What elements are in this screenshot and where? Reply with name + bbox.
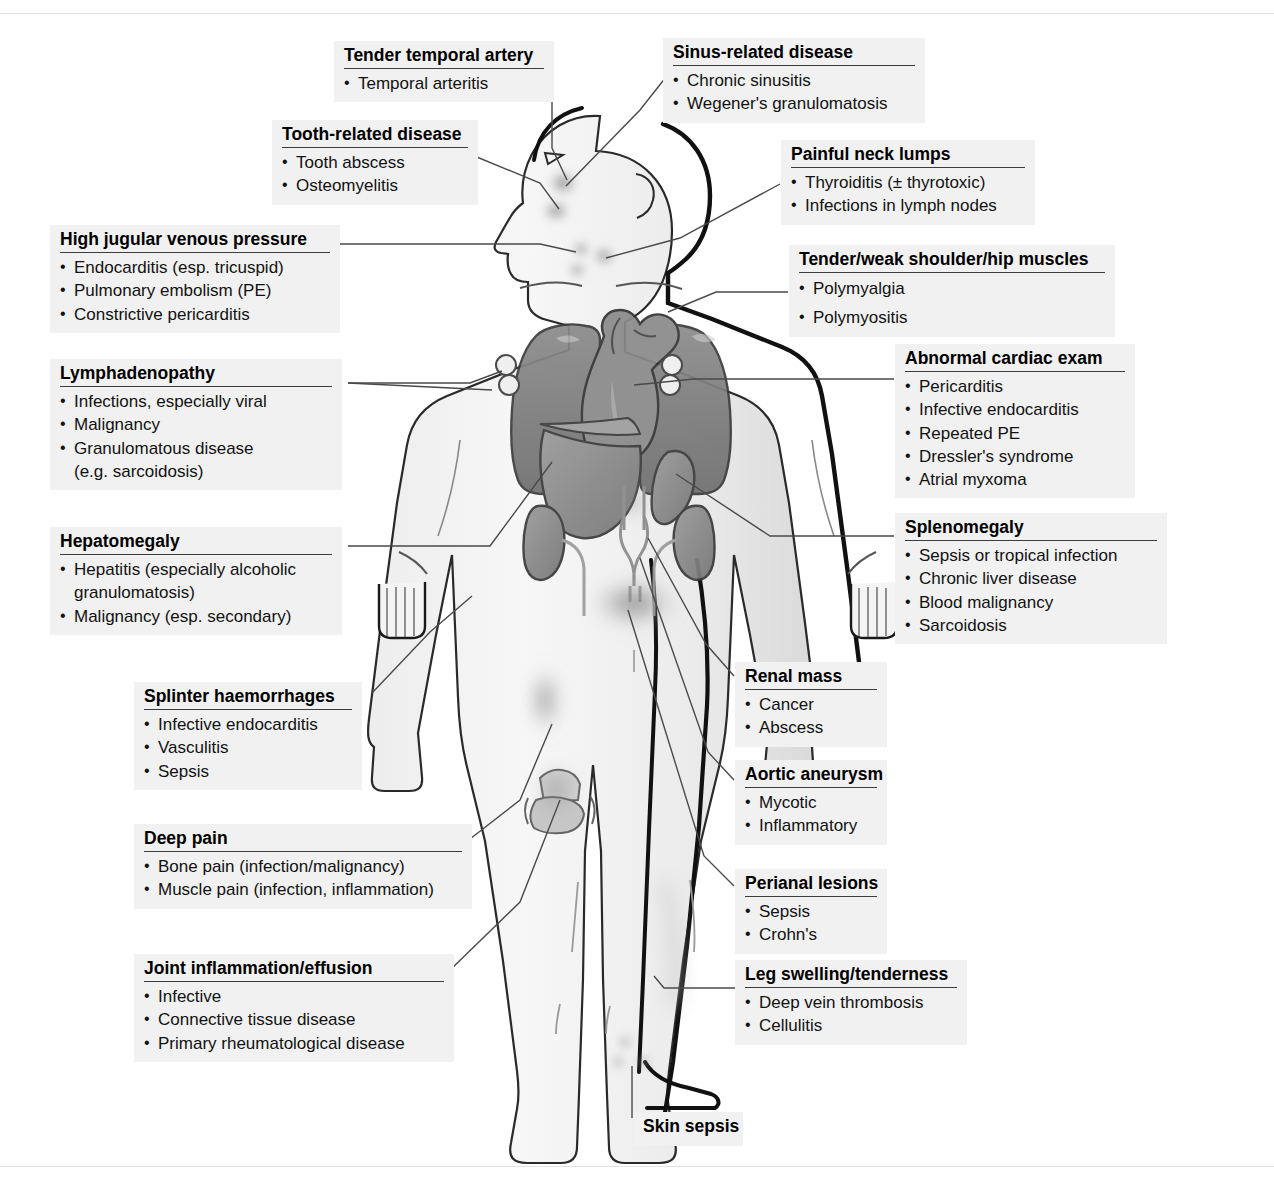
label-items: Polymyalgia Polymyositis	[799, 277, 1105, 329]
list-item: Polymyositis	[799, 306, 1105, 329]
list-item: Abscess	[745, 716, 877, 739]
list-item: Pulmonary embolism (PE)	[60, 279, 330, 302]
list-item: Infections, especially viral	[60, 390, 332, 413]
list-item: Cancer	[745, 693, 877, 716]
label-tooth-related-disease[interactable]: Tooth-related disease Tooth abscess Oste…	[272, 120, 478, 205]
list-item: Deep vein thrombosis	[745, 991, 957, 1014]
label-heading: Sinus-related disease	[673, 42, 915, 66]
list-item: Sepsis or tropical infection	[905, 544, 1157, 567]
label-items: Sepsis or tropical infection Chronic liv…	[905, 544, 1157, 636]
label-painful-neck-lumps[interactable]: Painful neck lumps Thyroiditis (± thyrot…	[781, 140, 1035, 225]
kidney-right	[674, 506, 715, 580]
list-item: Mycotic	[745, 791, 877, 814]
spot-skin-2	[611, 1056, 625, 1068]
list-item: Vasculitis	[144, 736, 352, 759]
list-item: Infections in lymph nodes	[791, 194, 1025, 217]
spot-neck-lower	[568, 262, 586, 278]
list-item: Chronic liver disease	[905, 567, 1157, 590]
label-leg-swelling-tenderness[interactable]: Leg swelling/tenderness Deep vein thromb…	[735, 960, 967, 1045]
label-items: Pericarditis Infective endocarditis Repe…	[905, 375, 1125, 491]
thumb-crease-right	[848, 552, 876, 574]
label-abnormal-cardiac-exam[interactable]: Abnormal cardiac exam Pericarditis Infec…	[895, 344, 1135, 498]
list-item: Crohn's	[745, 923, 877, 946]
label-heading: Renal mass	[745, 666, 877, 690]
label-heading: Tooth-related disease	[282, 124, 468, 148]
label-items: Mycotic Inflammatory	[745, 791, 877, 837]
label-tender-temporal-artery[interactable]: Tender temporal artery Temporal arteriti…	[334, 41, 554, 102]
label-high-jugular-venous-pressure[interactable]: High jugular venous pressure Endocarditi…	[50, 225, 340, 333]
label-items: Endocarditis (esp. tricuspid) Pulmonary …	[60, 256, 330, 325]
diagram-canvas: Tender temporal artery Temporal arteriti…	[0, 0, 1274, 1191]
label-renal-mass[interactable]: Renal mass Cancer Abscess	[735, 662, 887, 747]
lymph-node-left-upper	[496, 355, 516, 375]
list-item: Sepsis	[745, 900, 877, 923]
label-heading: Tender temporal artery	[344, 45, 544, 69]
label-heading: Lymphadenopathy	[60, 363, 332, 387]
list-item: Malignancy	[60, 413, 332, 436]
label-perianal-lesions[interactable]: Perianal lesions Sepsis Crohn's	[735, 869, 887, 954]
list-item: Bone pain (infection/malignancy)	[144, 855, 462, 878]
label-items: Hepatitis (especially alcoholic granulom…	[60, 558, 332, 627]
label-skin-sepsis[interactable]: Skin sepsis	[633, 1112, 743, 1146]
list-item: Tooth abscess	[282, 151, 468, 174]
label-heading: Skin sepsis	[643, 1116, 733, 1139]
label-heading: Leg swelling/tenderness	[745, 964, 957, 988]
label-heading: Tender/weak shoulder/hip muscles	[799, 249, 1105, 273]
label-sinus-related-disease[interactable]: Sinus-related disease Chronic sinusitis …	[663, 38, 925, 123]
spot-temporal-artery	[548, 170, 578, 196]
label-splenomegaly[interactable]: Splenomegaly Sepsis or tropical infectio…	[895, 513, 1167, 644]
spot-aorta	[602, 480, 654, 520]
list-item: Polymyalgia	[799, 277, 1105, 300]
label-items: Infective Connective tissue disease Prim…	[144, 985, 444, 1054]
label-lymphadenopathy[interactable]: Lymphadenopathy Infections, especially v…	[50, 359, 342, 490]
label-items: Tooth abscess Osteomyelitis	[282, 151, 468, 197]
spot-thyroid	[593, 246, 615, 266]
lymph-node-left-lower	[499, 375, 519, 395]
label-heading: Splinter haemorrhages	[144, 686, 352, 710]
label-deep-pain[interactable]: Deep pain Bone pain (infection/malignanc…	[134, 824, 472, 909]
label-items: Bone pain (infection/malignancy) Muscle …	[144, 855, 462, 901]
list-item: Constrictive pericarditis	[60, 303, 330, 326]
list-item: Infective	[144, 985, 444, 1008]
list-item: Chronic sinusitis	[673, 69, 915, 92]
list-item: Sepsis	[144, 760, 352, 783]
label-heading: Abnormal cardiac exam	[905, 348, 1125, 372]
list-item: Dressler's syndrome	[905, 445, 1125, 468]
label-joint-inflammation-effusion[interactable]: Joint inflammation/effusion Infective Co…	[134, 954, 454, 1062]
spot-deep-pain-thigh	[531, 666, 559, 734]
label-items: Temporal arteritis	[344, 72, 544, 95]
spot-tooth	[542, 200, 570, 222]
list-item: Wegener's granulomatosis	[673, 92, 915, 115]
list-item: Granulomatous disease	[60, 437, 332, 460]
list-item: Inflammatory	[745, 814, 877, 837]
list-item: Infective endocarditis	[144, 713, 352, 736]
list-item: Connective tissue disease	[144, 1008, 444, 1031]
list-item: Hepatitis (especially alcoholic	[60, 558, 332, 581]
list-item: Repeated PE	[905, 422, 1125, 445]
label-items: Deep vein thrombosis Cellulitis	[745, 991, 957, 1037]
list-item: Cellulitis	[745, 1014, 957, 1037]
label-heading: High jugular venous pressure	[60, 229, 330, 253]
label-heading: Hepatomegaly	[60, 531, 332, 555]
label-aortic-aneurysm[interactable]: Aortic aneurysm Mycotic Inflammatory	[735, 760, 887, 845]
list-item: Pericarditis	[905, 375, 1125, 398]
spot-skin-1	[618, 1036, 632, 1048]
label-items: Infections, especially viral Malignancy …	[60, 390, 332, 482]
list-item: Thyroiditis (± thyrotoxic)	[791, 171, 1025, 194]
list-item: Atrial myxoma	[905, 468, 1125, 491]
label-heading: Perianal lesions	[745, 873, 877, 897]
label-splinter-haemorrhages[interactable]: Splinter haemorrhages Infective endocard…	[134, 682, 362, 790]
label-tender-weak-shoulder-hip-muscles[interactable]: Tender/weak shoulder/hip muscles Polymya…	[789, 245, 1115, 337]
label-heading: Splenomegaly	[905, 517, 1157, 541]
label-hepatomegaly[interactable]: Hepatomegaly Hepatitis (especially alcoh…	[50, 527, 342, 635]
spot-knee	[534, 762, 578, 818]
label-heading: Painful neck lumps	[791, 144, 1025, 168]
list-item: Muscle pain (infection, inflammation)	[144, 878, 462, 901]
spot-skin-3	[637, 1056, 651, 1068]
label-heading: Deep pain	[144, 828, 462, 852]
list-item: Endocarditis (esp. tricuspid)	[60, 256, 330, 279]
list-item: Sarcoidosis	[905, 614, 1157, 637]
list-item: Malignancy (esp. secondary)	[60, 605, 332, 628]
label-heading: Aortic aneurysm	[745, 764, 877, 788]
label-items: Infective endocarditis Vasculitis Sepsis	[144, 713, 352, 782]
